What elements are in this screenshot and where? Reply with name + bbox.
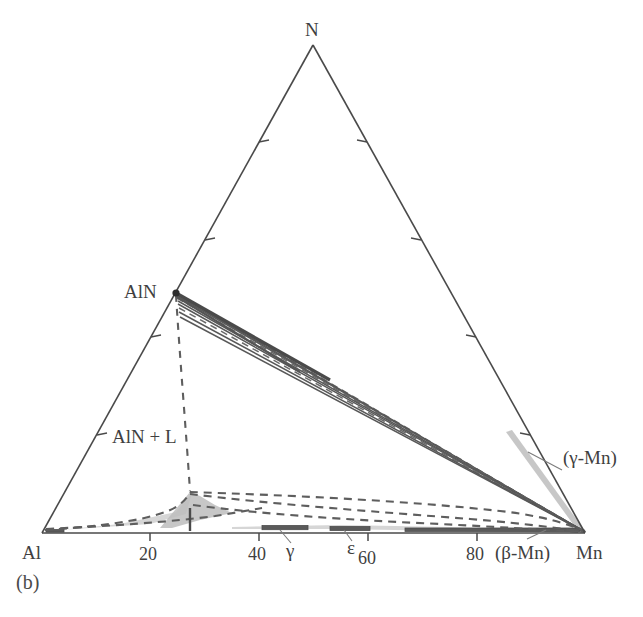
axis-tick-label-40: 40	[248, 545, 266, 563]
phase-label-aln: AlN	[124, 282, 157, 301]
right-tick-4	[520, 433, 530, 435]
phase-label-aln-plus-liquid: AlN + L	[112, 427, 177, 446]
figure-caption: (b)	[16, 572, 39, 592]
axis-tick-label-20: 20	[139, 545, 157, 563]
tieline-solid-4	[178, 304, 585, 532]
vertex-label-al: Al	[22, 543, 41, 562]
phase-label-gamma-mn: (γ-Mn)	[563, 448, 617, 467]
gamma-mn-wedge-shade	[506, 430, 585, 531]
tieline-bundle-head	[176, 293, 330, 380]
right-tick-2	[411, 238, 421, 240]
gamma-phase-band	[262, 526, 308, 530]
tie-line-fan	[176, 293, 585, 532]
phase-label-beta-mn: (β-Mn)	[495, 543, 550, 562]
epsilon-phase-band	[330, 527, 370, 531]
phase-label-gamma: γ	[286, 541, 294, 560]
ternary-phase-diagram-figure: N Al Mn AlN AlN + L γ ε (β-Mn) (γ-Mn) 20…	[0, 0, 643, 617]
axis-ticks	[97, 140, 530, 541]
aln-vertex-dot	[172, 289, 179, 296]
axis-tick-label-80: 80	[466, 545, 484, 563]
vertex-label-n: N	[305, 20, 319, 39]
axis-tick-label-60: 60	[358, 549, 376, 567]
tieline-bundle-head-2	[177, 297, 300, 372]
diagram-canvas	[0, 0, 643, 617]
axis-left-al-n	[42, 45, 313, 533]
left-tick-1	[97, 433, 107, 435]
vertex-label-mn: Mn	[576, 543, 602, 562]
phase-label-epsilon: ε	[347, 538, 355, 557]
aln-vertical-dashed-line	[176, 295, 190, 491]
